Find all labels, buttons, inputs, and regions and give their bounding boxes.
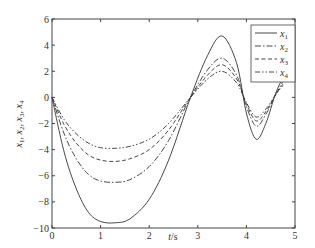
y-tick-label: 4 [44,40,49,51]
y-tick-label: −10 [33,223,49,234]
legend: x1x2x3x4 [251,25,295,82]
x-tick-label: 4 [244,230,249,241]
y-tick-label: −4 [38,144,49,155]
y-axis-label: x1, x2, x3, x4 [13,100,26,148]
series-x1 [52,36,283,223]
series-group [52,36,283,223]
x-axis-label: t/s [168,231,178,242]
y-tick-label: −2 [38,118,49,129]
x-tick-label: 1 [98,230,103,241]
x-tick-label: 3 [195,230,200,241]
y-tick-label: −6 [38,170,49,181]
line-chart: 012345−10−8−6−4−20246 x1x2x3x4 t/s x1, x… [0,0,315,248]
legend-box [251,25,295,82]
y-tick-label: −8 [38,196,49,207]
series-x4 [52,71,283,148]
series-x3 [52,65,283,162]
y-tick-label: 2 [44,66,49,77]
x-tick-label: 5 [293,230,298,241]
x-tick-label: 2 [147,230,152,241]
y-tick-label: 0 [44,92,49,103]
x-tick-label: 0 [50,230,55,241]
y-tick-label: 6 [44,14,49,25]
